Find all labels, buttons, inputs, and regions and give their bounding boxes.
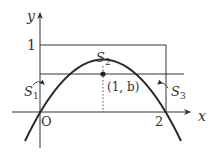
x-tick-label-2: 2	[155, 114, 163, 129]
point-label: (1, b)	[107, 80, 139, 94]
s1-pointer-arrow-icon	[33, 82, 44, 85]
point-1-b	[100, 71, 105, 76]
y-axis-label: y	[26, 8, 36, 24]
y-tick-label-1: 1	[27, 37, 36, 53]
region-label-s2: S2	[96, 50, 111, 67]
x-axis-label: x	[198, 108, 206, 124]
region-label-s1: S1	[24, 84, 39, 101]
origin-label: O	[41, 114, 52, 129]
region-label-s3: S3	[171, 84, 186, 101]
point-label-text: (1, b)	[107, 80, 139, 94]
function-diagram: y x 1 O 2 (1, b) S2 S1 S3	[0, 0, 220, 152]
